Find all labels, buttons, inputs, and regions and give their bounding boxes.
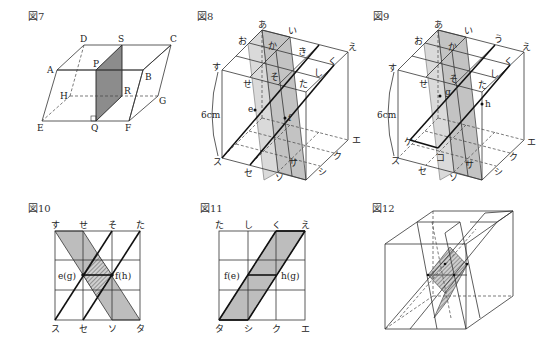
svg-text:た: た xyxy=(478,80,487,90)
svg-text:き: き xyxy=(298,47,307,57)
vertex-g: G xyxy=(159,96,166,106)
svg-text:そ: そ xyxy=(270,72,279,82)
svg-text:コ: コ xyxy=(436,153,445,163)
svg-text:ス: ス xyxy=(51,324,60,334)
vertex-c: C xyxy=(170,34,177,44)
vertex-q: Q xyxy=(91,123,98,133)
vertex-h: H xyxy=(60,91,68,101)
svg-text:そ: そ xyxy=(108,220,117,230)
svg-text:セ: セ xyxy=(418,166,427,176)
svg-text:セ: セ xyxy=(244,168,253,178)
svg-text:f(e): f(e) xyxy=(224,271,240,281)
vertex-p: P xyxy=(93,59,99,69)
svg-text:h: h xyxy=(485,99,491,109)
svg-text:せ: せ xyxy=(419,79,428,89)
svg-text:e(g): e(g) xyxy=(58,271,76,281)
svg-text:ス: ス xyxy=(391,156,400,166)
svg-text:し: し xyxy=(490,69,499,79)
svg-text:セ: セ xyxy=(79,324,88,334)
vertex-r: R xyxy=(124,86,131,96)
vertex-d: D xyxy=(80,34,87,44)
svg-text:サ: サ xyxy=(465,160,474,170)
vertex-s: S xyxy=(118,34,124,44)
svg-text:そ: そ xyxy=(449,74,458,84)
figure-10: 図10 す せ そ た ス セ ソ タ e(g) f(h) xyxy=(28,203,145,334)
svg-text:す: す xyxy=(51,220,60,230)
vertex-f: F xyxy=(125,123,131,133)
fig8-title: 図8 xyxy=(197,11,213,22)
fig11-title: 図11 xyxy=(200,203,223,214)
svg-text:い: い xyxy=(464,26,473,36)
svg-text:エ: エ xyxy=(352,135,361,145)
fig7-title: 図7 xyxy=(28,11,44,22)
fig9-dimension-6cm: 6cm xyxy=(377,110,397,120)
svg-text:か: か xyxy=(268,41,277,51)
svg-text:し: し xyxy=(314,68,323,78)
svg-text:お: お xyxy=(238,36,247,46)
svg-text:え: え xyxy=(301,220,310,230)
svg-text:ソ: ソ xyxy=(449,173,458,183)
svg-text:f(h): f(h) xyxy=(115,271,131,281)
vertex-b: B xyxy=(145,72,152,82)
fig8-dimension-6cm: 6cm xyxy=(201,110,221,120)
svg-text:サ: サ xyxy=(289,158,298,168)
svg-text:し: し xyxy=(244,220,253,230)
svg-text:せ: せ xyxy=(79,220,88,230)
svg-text:え: え xyxy=(348,42,357,52)
svg-text:え: え xyxy=(522,42,531,52)
svg-text:ソ: ソ xyxy=(275,173,284,183)
figure-12: 図12 xyxy=(372,203,513,329)
vertex-a: A xyxy=(46,65,54,75)
svg-text:エ: エ xyxy=(301,324,310,334)
svg-text:た: た xyxy=(215,220,224,230)
svg-text:い: い xyxy=(288,26,297,36)
svg-text:g: g xyxy=(445,87,451,97)
svg-text:ケ: ケ xyxy=(404,137,413,147)
svg-text:e: e xyxy=(248,104,253,114)
svg-text:す: す xyxy=(388,63,397,73)
svg-text:タ: タ xyxy=(136,324,145,334)
svg-text:タ: タ xyxy=(215,324,224,334)
svg-text:か: か xyxy=(448,42,457,52)
right-angle-mark xyxy=(91,116,96,121)
svg-text:h(g): h(g) xyxy=(281,271,300,281)
fig12-title: 図12 xyxy=(372,203,395,214)
svg-text:す: す xyxy=(212,62,221,72)
figure-7: 図7 D S C A P B H R G E Q F xyxy=(28,11,177,133)
svg-text:あ: あ xyxy=(258,20,267,30)
figure-11: 図11 た し く え タ シ ク エ f(e) h(g) xyxy=(200,203,310,334)
svg-text:た: た xyxy=(136,220,145,230)
svg-text:く: く xyxy=(504,56,513,66)
vertex-e: E xyxy=(37,123,44,133)
fig10-title: 図10 xyxy=(28,203,51,214)
svg-text:ソ: ソ xyxy=(108,324,117,334)
svg-text:シ: シ xyxy=(318,167,327,177)
svg-text:シ: シ xyxy=(244,324,253,334)
svg-text:く: く xyxy=(272,220,281,230)
figure-8: 図8 6cm あ い え お か き く xyxy=(197,11,361,186)
svg-text:お: お xyxy=(414,36,423,46)
svg-text:た: た xyxy=(299,79,308,89)
svg-text:ク: ク xyxy=(333,151,342,161)
svg-text:う: う xyxy=(494,34,503,44)
svg-text:シ: シ xyxy=(494,167,503,177)
fig9-title: 図9 xyxy=(373,11,389,22)
figure-9: 図9 6cm あ い う え お か く し す せ そ xyxy=(373,11,536,183)
svg-text:ス: ス xyxy=(213,157,222,167)
svg-text:く: く xyxy=(328,56,337,66)
svg-text:あ: あ xyxy=(434,20,443,30)
shaded-face-pqrs xyxy=(96,45,122,121)
figure-sheet: 図7 D S C A P B H R G E Q F 図8 xyxy=(0,0,551,352)
svg-text:ク: ク xyxy=(509,152,518,162)
svg-text:エ: エ xyxy=(527,137,536,147)
svg-text:せ: せ xyxy=(243,79,252,89)
svg-text:ク: ク xyxy=(272,324,281,334)
